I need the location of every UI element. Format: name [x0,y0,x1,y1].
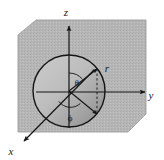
radius-label-r: r [105,62,110,74]
coordinate-diagram-svg: z y x r θ ϕ [0,0,164,160]
z-axis-label: z [63,6,69,18]
spherical-coordinates-figure: z y x r θ ϕ [0,0,164,160]
x-axis-label: x [8,145,14,157]
y-axis-label: y [148,89,154,101]
theta-label: θ [75,78,79,88]
phi-label: ϕ [68,113,73,123]
